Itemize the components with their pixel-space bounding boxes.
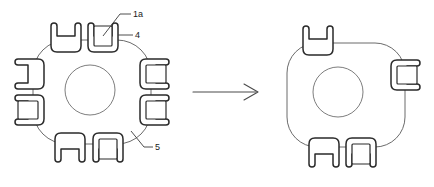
right-assembly-group	[287, 26, 420, 167]
right-bottom-right-clip	[346, 138, 376, 167]
transform-arrow	[193, 84, 258, 100]
callout-label-4: 4	[135, 30, 140, 40]
callout-label-1a: 1a	[133, 9, 143, 19]
right-bottom-right-clip-inner	[352, 144, 370, 164]
left-side-lower-clip-inner	[18, 101, 38, 119]
left-top-right-clip	[88, 23, 118, 52]
left-right-upper-clip	[140, 59, 169, 89]
left-assembly-group: 1a 4 5	[15, 9, 169, 162]
left-top-left-clip	[51, 23, 81, 52]
technical-drawing: 1a 4 5	[0, 0, 434, 187]
right-side-clip	[391, 60, 420, 90]
right-body-outline	[287, 43, 405, 147]
right-top-clip	[303, 26, 333, 55]
left-body-outline	[33, 40, 151, 144]
left-right-upper-clip-inner	[146, 65, 166, 83]
right-side-clip-inner	[397, 66, 417, 84]
left-bottom-left-clip	[55, 133, 85, 162]
right-bottom-left-clip	[309, 138, 339, 167]
diagram-page: 1a 4 5	[0, 0, 434, 187]
left-right-lower-clip-inner	[146, 101, 166, 119]
left-bottom-right-clip-inner	[99, 139, 117, 159]
left-side-lower-clip	[15, 95, 44, 125]
left-right-lower-clip	[140, 95, 169, 125]
callout-label-5: 5	[155, 142, 160, 152]
left-side-upper-clip	[15, 59, 44, 89]
left-bottom-right-clip	[93, 133, 123, 162]
